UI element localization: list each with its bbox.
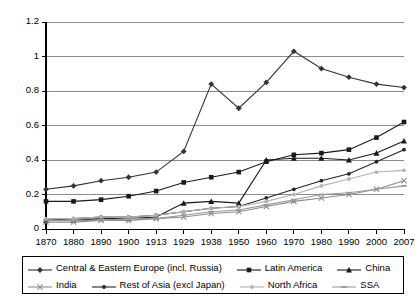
x-tick-label: 1929 [169,237,199,247]
y-tick-label: 0.6 [26,120,39,130]
y-tick-label: 0.2 [26,189,39,199]
data-point-marker [291,199,296,201]
legend-label: North Africa [268,279,318,290]
data-point-marker [264,204,269,206]
legend-label: SSA [360,279,379,290]
legend-label: India [56,279,77,290]
data-point-marker [347,147,352,152]
data-series [43,178,406,225]
legend-marker-icon [91,279,117,291]
data-point-marker [236,170,241,175]
x-tick-label: 1960 [251,237,281,247]
data-point-marker [319,184,323,188]
data-point-marker [292,187,296,191]
x-tick-label: 1880 [59,237,89,247]
x-tick-label: 1980 [306,237,336,247]
x-tick-label: 2007 [389,237,419,247]
y-tick-label: 0.8 [26,85,39,95]
legend-item[interactable]: China [336,262,390,274]
data-series-group [43,48,407,224]
data-point-marker [102,285,106,289]
legend-marker-icon [236,262,262,274]
data-point-marker [375,160,379,164]
data-point-marker [347,177,351,181]
x-tick-label: 2000 [361,237,391,247]
data-point-marker [292,193,296,197]
x-tick-label: 1890 [86,237,116,247]
data-point-marker [209,206,213,210]
legend-label: China [365,262,390,273]
data-point-marker [375,170,379,174]
legend-item[interactable]: North Africa [239,279,318,291]
data-point-marker [374,81,380,87]
data-point-marker [250,285,254,289]
data-point-marker [236,209,241,211]
data-point-marker [373,150,379,156]
legend-item[interactable]: Latin America [236,262,323,274]
legend-marker-icon [27,262,53,274]
data-point-marker [347,172,351,176]
data-point-marker [401,185,406,187]
series-line [46,186,404,221]
data-point-marker [182,210,186,214]
x-tick-label: 1990 [334,237,364,247]
data-point-marker [98,219,103,221]
data-point-marker [401,85,407,91]
legend-marker-icon [336,262,362,274]
data-point-marker [319,194,324,196]
data-point-marker [346,74,352,80]
data-point-marker [37,267,43,273]
data-point-marker [99,197,104,202]
data-point-marker [126,174,132,180]
data-point-marker [209,175,214,180]
x-tick-label: 1913 [141,237,171,247]
legend-marker-icon [239,279,265,291]
data-point-marker [71,183,77,189]
x-tick-label: 1950 [224,237,254,247]
legend-marker-icon [331,279,357,291]
chart-legend: Central & Eastern Europe (incl. Russia)L… [22,256,404,294]
data-point-marker [209,211,214,213]
data-series [43,185,406,221]
data-point-marker [264,196,268,200]
data-series [44,120,407,204]
data-point-marker [402,168,406,172]
legend-item[interactable]: Rest of Asia (excl Japan) [91,279,225,291]
data-point-marker [237,205,241,209]
data-point-marker [318,66,324,72]
data-point-marker [402,148,406,152]
data-point-marker [43,186,49,192]
data-point-marker [402,120,407,125]
data-point-marker [71,219,76,221]
legend-row: IndiaRest of Asia (excl Japan)North Afri… [23,276,403,293]
data-point-marker [346,192,351,194]
legend-row: Central & Eastern Europe (incl. Russia)L… [23,259,403,276]
data-point-marker [126,194,131,199]
data-point-marker [374,135,379,140]
data-point-marker [126,218,131,220]
x-tick-label: 1938 [196,237,226,247]
data-point-marker [181,214,186,216]
data-point-marker [246,267,251,272]
data-point-marker [99,215,103,219]
data-point-marker [401,138,407,144]
data-point-marker [43,219,48,221]
y-tick-label: 1.2 [26,16,39,26]
data-point-marker [374,188,379,190]
plot-area: 00.20.40.60.811.2 1870188018901900191319… [0,0,414,252]
legend-label: Rest of Asia (excl Japan) [120,279,225,290]
data-point-marker [181,180,186,185]
y-tick-label: 1 [34,51,39,61]
legend-item[interactable]: Central & Eastern Europe (incl. Russia) [27,262,222,274]
data-point-marker [264,200,268,204]
data-point-marker [342,286,347,288]
legend-item[interactable]: SSA [331,279,379,291]
data-point-marker [319,151,324,156]
data-point-marker [319,179,323,183]
y-tick-label: 0 [34,223,39,233]
legend-label: Central & Eastern Europe (incl. Russia) [56,262,222,273]
series-line [46,51,404,189]
data-point-marker [154,213,158,217]
legend-item[interactable]: India [27,279,77,291]
